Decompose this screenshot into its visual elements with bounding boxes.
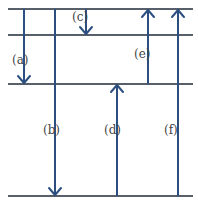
transition-label-b: (b) [43,123,60,137]
transition-label-e: (e) [134,47,150,61]
energy-level-diagram: (a)(b)(c)(d)(e)(f) [0,0,198,204]
transition-label-a: (a) [12,53,29,67]
transition-label-c: (c) [72,10,88,24]
transition-arrow-f [172,9,184,196]
transition-arrow-d [111,84,123,196]
transition-arrow-a [18,9,30,84]
transition-arrow-b [49,9,61,196]
transition-label-f: (f) [164,123,178,137]
transition-label-d: (d) [104,123,121,137]
